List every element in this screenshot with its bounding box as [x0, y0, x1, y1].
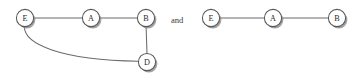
right-graph-nodes: EAB [202, 9, 347, 28]
node-label-B: B [143, 14, 149, 23]
node-label-E: E [22, 14, 27, 23]
node-label-A: A [88, 14, 94, 23]
graph-node-B[interactable]: B [137, 9, 156, 28]
graph-node-B[interactable]: B [328, 9, 347, 28]
node-label-E: E [208, 14, 213, 23]
graph-figure: EABDEAB and [0, 0, 364, 79]
left-graph-nodes: EABD [16, 9, 157, 72]
graph-node-D[interactable]: D [138, 53, 157, 72]
graph-node-A[interactable]: A [82, 9, 101, 28]
graph-node-E[interactable]: E [16, 9, 35, 28]
figure-canvas: EABDEAB and [0, 0, 364, 79]
node-label-D: D [144, 58, 150, 67]
graph-edge-B-D [146, 27, 147, 54]
node-label-B: B [334, 14, 340, 23]
graph-edge-E-D [24, 27, 138, 62]
node-label-A: A [270, 14, 276, 23]
graph-node-E[interactable]: E [202, 9, 221, 28]
conjunction-label: and [171, 15, 184, 25]
graph-node-A[interactable]: A [264, 9, 283, 28]
